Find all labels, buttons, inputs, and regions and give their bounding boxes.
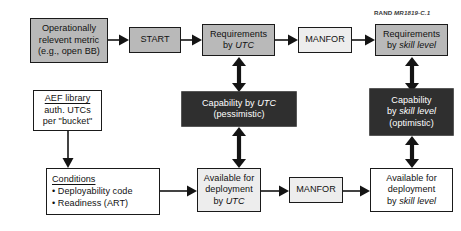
node-capability-by-skill-level-optimistic[interactable]: Capability by skill level (optimistic) xyxy=(370,89,453,135)
node-operationally-relevant-metric[interactable]: Operationally relevent metric (e.g., ope… xyxy=(30,18,108,63)
req-skill-italic: skill level xyxy=(399,40,436,50)
arrow-manfor-bottom-to-avail-skill xyxy=(343,184,371,198)
figure-credit: RAND MR1819-C.1 xyxy=(374,9,430,16)
arrow-conditions-to-avail-utc xyxy=(160,184,198,198)
arrow-req-utc-cap-utc xyxy=(231,57,247,92)
avail-skill-line-1: Available for xyxy=(386,173,437,184)
cap-utc-line-1: Capability by UTC xyxy=(202,98,276,109)
arrow-req-utc-to-manfor-top xyxy=(275,33,299,47)
avail-utc-line-1: Available for xyxy=(204,173,255,184)
arrow-start-to-req-utc xyxy=(181,33,203,47)
cap-utc-italic: UTC xyxy=(257,98,276,108)
aef-line-1: auth. UTCs xyxy=(44,105,91,116)
avail-utc-line-2: deployment xyxy=(205,184,253,195)
req-utc-line-2: by UTC xyxy=(223,40,254,51)
figure-canvas: RAND MR1819-C.1 Operationally relevent m… xyxy=(0,0,461,231)
cap-skill-line-2: by skill level xyxy=(387,106,436,117)
req-utc-italic: UTC xyxy=(235,40,254,50)
node-manfor-bottom[interactable]: MANFOR xyxy=(289,177,343,203)
node-aef-library[interactable]: AEF library auth. UTCs per "bucket" xyxy=(33,90,102,131)
metric-line-1: Operationally xyxy=(42,23,96,34)
arrow-cap-utc-avail-utc xyxy=(231,127,247,168)
arrow-cap-skill-avail-skill xyxy=(404,136,420,168)
node-available-for-deployment-by-utc[interactable]: Available for deployment by UTC xyxy=(197,168,261,212)
avail-utc-italic: UTC xyxy=(226,196,245,206)
conditions-bullet-2: • Readiness (ART) xyxy=(52,198,128,209)
manfor-bottom-label: MANFOR xyxy=(296,184,336,195)
avail-utc-line-3: by UTC xyxy=(213,196,244,207)
manfor-top-label: MANFOR xyxy=(305,34,345,45)
start-label: START xyxy=(140,34,169,45)
arrow-aef-to-conditions xyxy=(61,131,75,169)
node-capability-by-utc-pessimistic[interactable]: Capability by UTC (pessimistic) xyxy=(182,92,296,126)
node-requirements-by-skill-level[interactable]: Requirements by skill level xyxy=(375,24,448,56)
aef-line-2: per "bucket" xyxy=(43,116,93,127)
aef-header: AEF library xyxy=(45,93,91,104)
metric-line-3: (e.g., open BB) xyxy=(38,46,100,57)
avail-skill-line-2: deployment xyxy=(388,184,436,195)
cap-skill-italic: skill level xyxy=(399,106,436,116)
req-skill-line-2: by skill level xyxy=(387,40,436,51)
avail-skill-line-3: by skill level xyxy=(387,196,436,207)
credit-figure-id: MR1819-C.1 xyxy=(394,9,430,16)
credit-publisher: RAND xyxy=(374,9,392,16)
node-available-for-deployment-by-skill-level[interactable]: Available for deployment by skill level xyxy=(370,168,453,212)
node-start[interactable]: START xyxy=(129,27,181,53)
cap-utc-line-2: (pessimistic) xyxy=(213,109,264,120)
metric-line-2: relevent metric xyxy=(39,35,99,46)
arrow-req-skill-cap-skill xyxy=(404,57,420,92)
conditions-header: Conditions xyxy=(52,174,95,185)
arrow-metric-to-start xyxy=(108,33,130,47)
conditions-bullet-1: • Deployability code xyxy=(52,186,133,197)
avail-skill-italic: skill level xyxy=(399,196,436,206)
arrow-manfor-top-to-req-skill xyxy=(352,33,376,47)
arrow-avail-utc-to-manfor-bottom xyxy=(261,184,290,198)
cap-skill-line-1: Capability xyxy=(391,95,431,106)
cap-skill-line-3: (optimistic) xyxy=(389,118,434,129)
node-manfor-top[interactable]: MANFOR xyxy=(298,27,352,53)
req-utc-line-1: Requirements xyxy=(210,29,267,40)
node-requirements-by-utc[interactable]: Requirements by UTC xyxy=(202,24,275,56)
req-skill-line-1: Requirements xyxy=(383,29,440,40)
node-conditions[interactable]: Conditions • Deployability code • Readin… xyxy=(46,168,160,215)
